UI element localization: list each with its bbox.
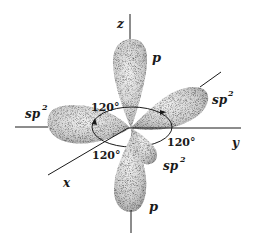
sp2-left-label: sp: [25, 107, 41, 121]
sp2-right-label: sp: [212, 93, 228, 107]
y-axis-label: y: [231, 136, 240, 150]
angle-label-lower-left: 120°: [92, 149, 120, 162]
sp2-orbital-diagram: z y x p p sp 2 sp 2 sp 2 120° 120° 120°: [0, 0, 254, 240]
p-upper-label: p: [152, 50, 161, 65]
sp2-front-sup: 2: [179, 154, 186, 164]
sp2-right-axis: [200, 72, 221, 87]
angle-label-right: 120°: [167, 136, 195, 149]
z-axis-label: z: [116, 17, 125, 31]
sp2-front-label: sp: [163, 159, 179, 173]
sp2-left-sup: 2: [41, 102, 48, 112]
sp2-right-lobe: [130, 87, 208, 130]
angle-label-upper-left: 120°: [91, 101, 119, 114]
sp2-right-sup: 2: [227, 88, 234, 98]
p-upper-lobe: [113, 39, 147, 128]
p-lower-label: p: [149, 199, 158, 214]
x-axis-label: x: [62, 176, 71, 190]
